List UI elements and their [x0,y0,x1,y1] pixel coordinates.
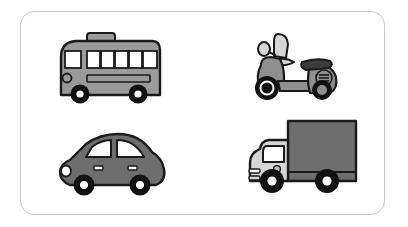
bus-front-window [65,51,81,68]
truck-group [249,121,356,193]
bus-side-window [143,51,157,68]
vehicle-scooter [244,31,348,105]
bus-headlight-icon [63,74,72,83]
bus-side-window [129,51,142,68]
truck-wheel-rear [315,169,339,193]
illustration-canvas [0,0,408,227]
scooter-mirror [258,42,270,56]
scooter-seat [301,59,332,70]
truck-wheel-front [260,169,284,193]
car-wheel-rear [130,175,151,196]
scooter-wheel-front [255,76,279,100]
bus-side-window [115,51,128,68]
bus-roof-hatch [87,33,115,41]
truck-cab-window [263,146,284,162]
car-wheel-front [74,175,95,196]
bus-side-window [101,51,114,68]
vehicle-bus [56,31,168,105]
truck-lower-bumper [249,176,260,180]
vehicle-car [56,131,170,201]
bus-wheel-rear [129,85,148,104]
vehicle-truck [238,117,360,201]
bus-side-window [87,51,100,68]
scooter-windshield [274,34,288,58]
car-door-handle [94,166,103,170]
bus-group [61,33,160,104]
scooter-group [255,34,336,100]
scooter-wheel-rear [312,80,332,100]
car-body [60,134,164,185]
car-group [60,134,164,196]
car-headlight-icon [61,166,71,177]
truck-bumper [249,169,260,173]
bus-wheel-front [71,85,90,104]
car-door-handle [128,166,137,170]
bus-side-stripe [87,75,150,82]
